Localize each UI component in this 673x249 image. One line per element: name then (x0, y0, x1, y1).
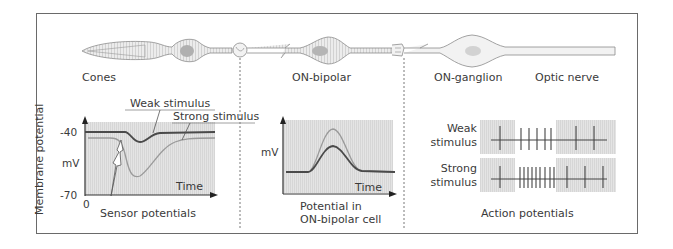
label-cones: Cones (82, 72, 116, 83)
y-tick-minus-40: -40 (60, 127, 77, 138)
y-unit-mv: mV (261, 147, 278, 158)
weak-row-label-line1: Weak (437, 123, 477, 134)
synapse-icon (233, 43, 247, 57)
strong-row-label-line1: Strong (427, 163, 477, 174)
ganglion-cell-illustration (404, 35, 615, 67)
y-unit-mv: mV (62, 158, 79, 169)
ganglion-nucleus (465, 46, 481, 56)
cone-nucleus (180, 45, 194, 57)
sensor-potentials-caption: Sensor potentials (100, 208, 196, 219)
y-axis-label: Membrane potential (33, 104, 46, 215)
label-on-ganglion: ON-ganglion (434, 72, 502, 83)
synapse-icon (392, 44, 404, 56)
y-tick-minus-70: -70 (60, 190, 77, 201)
bipolar-nucleus (312, 46, 328, 56)
label-on-bipolar: ON-bipolar (292, 72, 351, 83)
strong-stimulus-label: Strong stimulus (173, 111, 259, 122)
action-potentials-plot (480, 120, 616, 192)
x-axis-time-label: Time (176, 181, 203, 192)
strong-row-label-line2: stimulus (427, 177, 477, 188)
cone-cell-illustration (82, 39, 247, 61)
weak-row-label-line2: stimulus (427, 137, 477, 148)
sensor-potentials-plot (82, 110, 255, 198)
action-potentials-caption: Action potentials (481, 208, 574, 219)
label-optic-nerve: Optic nerve (535, 72, 599, 83)
weak-stimulus-label: Weak stimulus (130, 98, 210, 109)
bipolar-cell-illustration (247, 37, 404, 64)
bipolar-caption-line1: Potential in (300, 201, 362, 212)
x-axis-time-label: Time (355, 182, 382, 193)
x-origin-zero: 0 (83, 199, 90, 210)
bipolar-caption-line2: ON-bipolar cell (300, 214, 381, 225)
